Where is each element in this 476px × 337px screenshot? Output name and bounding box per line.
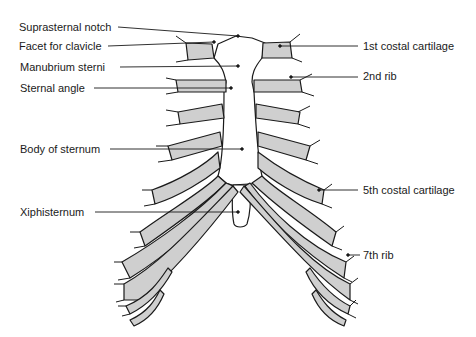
label-xiphisternum: Xiphisternum xyxy=(20,206,84,219)
label-manubrium-sterni: Manubrium sterni xyxy=(20,61,105,74)
label-5th-costal-cartilage: 5th costal cartilage xyxy=(363,184,455,197)
label-facet-for-clavicle: Facet for clavicle xyxy=(19,40,102,53)
label-sternal-angle: Sternal angle xyxy=(20,82,85,95)
label-7th-rib: 7th rib xyxy=(363,249,394,262)
label-suprasternal-notch: Suprasternal notch xyxy=(19,21,111,34)
label-body-of-sternum: Body of sternum xyxy=(20,143,100,156)
label-2nd-rib: 2nd rib xyxy=(363,70,397,83)
label-1st-costal-cartilage: 1st costal cartilage xyxy=(363,40,454,53)
